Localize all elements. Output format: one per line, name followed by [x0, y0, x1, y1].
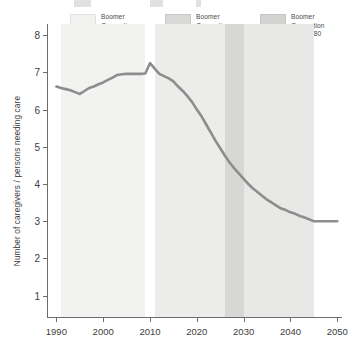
chart-figure: Boomer Generation turning 45 Boomer Gene…	[0, 0, 361, 362]
y-tick-label-7: 7	[34, 67, 40, 78]
y-tick-7: 7	[43, 72, 47, 73]
y-tick-3: 3	[43, 221, 47, 222]
y-tick-label-5: 5	[34, 141, 40, 152]
x-tick-label-2000: 2000	[93, 326, 114, 337]
y-tick-label-3: 3	[34, 216, 40, 227]
x-tick-2000: 2000	[103, 318, 104, 322]
plot-area: 12345678 1990200020102020203020402050	[47, 24, 342, 318]
page-artifact-mark	[150, 0, 163, 7]
series-line-layer	[47, 24, 342, 318]
y-tick-label-1: 1	[34, 290, 40, 301]
x-tick-2030: 2030	[244, 318, 245, 322]
x-tick-label-1990: 1990	[46, 326, 67, 337]
x-tick-label-2010: 2010	[139, 326, 160, 337]
x-tick-label-2030: 2030	[233, 326, 254, 337]
x-axis-line	[47, 317, 342, 318]
y-tick-4: 4	[43, 184, 47, 185]
plot-inner	[47, 24, 342, 318]
x-tick-label-2050: 2050	[327, 326, 348, 337]
x-tick-2040: 2040	[290, 318, 291, 322]
y-tick-label-8: 8	[34, 30, 40, 41]
y-axis-line	[47, 24, 48, 318]
y-axis-title: Number of caregivers / persons needing c…	[13, 96, 22, 266]
y-tick-label-4: 4	[34, 179, 40, 190]
series-line-caregiver-ratio	[56, 63, 337, 221]
x-tick-2020: 2020	[197, 318, 198, 322]
x-tick-label-2020: 2020	[186, 326, 207, 337]
x-tick-1990: 1990	[56, 318, 57, 322]
x-tick-2050: 2050	[337, 318, 338, 322]
x-tick-label-2040: 2040	[280, 326, 301, 337]
page-artifact-mark	[196, 0, 201, 7]
y-tick-2: 2	[43, 258, 47, 259]
y-tick-6: 6	[43, 110, 47, 111]
y-tick-label-6: 6	[34, 104, 40, 115]
y-tick-1: 1	[43, 296, 47, 297]
y-tick-8: 8	[43, 35, 47, 36]
y-tick-5: 5	[43, 147, 47, 148]
page-artifact-mark	[74, 0, 91, 7]
y-tick-label-2: 2	[34, 253, 40, 264]
x-tick-2010: 2010	[150, 318, 151, 322]
